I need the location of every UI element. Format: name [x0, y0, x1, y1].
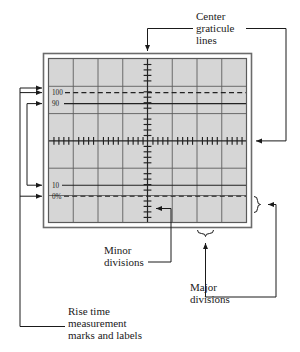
rise-time-label-0: 0% [52, 193, 62, 201]
callout-major-divisions-line-1: Major [190, 281, 217, 293]
rise-time-label-10: 10 [52, 182, 60, 190]
diagram-canvas: 100 90 10 0% Center graticule lines Mino… [0, 0, 300, 352]
callout-major-divisions-line-2: divisions [190, 293, 230, 305]
callout-minor-divisions-line-1: Minor [104, 244, 132, 256]
callout-center-graticule-line-1: Center [196, 10, 226, 22]
callout-center-graticule-line-3: lines [196, 34, 217, 46]
rise-time-label-100: 100 [52, 89, 63, 97]
brace-major-division-horizontal [198, 230, 214, 237]
callout-center-graticule-line-2: graticule [196, 22, 235, 34]
callout-rise-time-line-3: marks and labels [68, 329, 142, 341]
figure-root: 100 90 10 0% Center graticule lines Mino… [0, 0, 300, 352]
callout-rise-time-line-2: measurement [68, 317, 127, 329]
brace-major-division-vertical [254, 197, 261, 213]
callout-minor-divisions-line-2: divisions [104, 256, 144, 268]
callout-rise-time-line-1: Rise time [68, 305, 110, 317]
rise-time-label-90: 90 [52, 100, 60, 108]
leader-center-vertical [148, 29, 194, 52]
